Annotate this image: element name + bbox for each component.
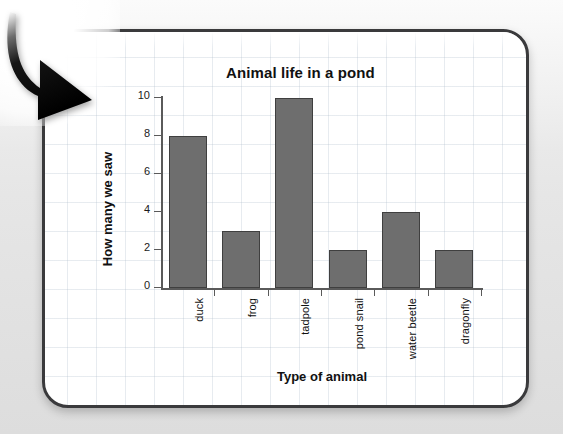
bar	[275, 98, 313, 288]
x-tick	[481, 289, 482, 296]
x-tick-label: pond snail	[353, 298, 365, 349]
worksheet-card: Animal life in a pond How many we saw 02…	[42, 29, 529, 408]
x-tick	[321, 289, 322, 296]
y-tick-label: 4	[144, 203, 150, 215]
bar	[329, 250, 367, 288]
y-tick: 6	[154, 173, 161, 174]
x-tick-label: frog	[246, 298, 258, 317]
y-tick-label: 6	[144, 165, 150, 177]
x-tick	[374, 289, 375, 296]
y-tick: 0	[154, 287, 161, 288]
y-tick: 4	[154, 211, 161, 212]
y-tick-label: 2	[144, 241, 150, 253]
chart-title: Animal life in a pond	[45, 64, 526, 81]
y-tick: 2	[154, 249, 161, 250]
x-tick-label: duck	[193, 298, 205, 322]
bar	[222, 231, 260, 288]
plot-area: 0246810 duckfrogtadpolepond snailwater b…	[161, 98, 481, 288]
x-tick	[428, 289, 429, 296]
y-axis-title: How many we saw	[100, 152, 115, 266]
x-tick	[214, 289, 215, 296]
bar	[435, 250, 473, 288]
y-tick-label: 0	[144, 279, 150, 291]
x-tick-label: dragonfly	[459, 298, 471, 344]
x-tick	[268, 289, 269, 296]
y-tick: 8	[154, 135, 161, 136]
y-tick: 10	[154, 97, 161, 98]
bar	[169, 136, 207, 288]
x-axis-title: Type of animal	[161, 369, 483, 384]
bar-series	[161, 98, 481, 288]
y-tick-label: 8	[144, 127, 150, 139]
x-tick-label: water beetle	[406, 298, 418, 359]
bar	[382, 212, 420, 288]
down-right-curved-arrow-icon	[4, 8, 96, 120]
x-tick-label: tadpole	[299, 298, 311, 335]
x-axis-line	[161, 288, 483, 290]
bar-chart: Animal life in a pond How many we saw 02…	[45, 32, 526, 405]
y-tick-label: 10	[138, 89, 150, 101]
